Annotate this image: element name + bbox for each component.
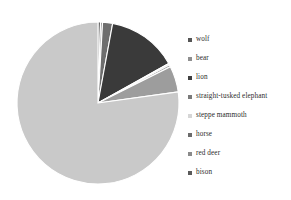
pie-svg	[10, 14, 188, 194]
legend-swatch-red-deer	[188, 152, 192, 156]
legend-swatch-bison	[188, 171, 192, 175]
chart-legend: wolf bear lion straight-tusked elephant …	[188, 30, 291, 182]
pie-chart-figure: wolf bear lion straight-tusked elephant …	[0, 0, 291, 200]
legend-item-bison[interactable]: bison	[188, 163, 291, 182]
legend-swatch-horse	[188, 133, 192, 137]
legend-swatch-wolf	[188, 38, 192, 42]
legend-item-steppe-mammoth[interactable]: steppe mammoth	[188, 106, 291, 125]
legend-label-lion: lion	[196, 68, 208, 87]
legend-item-horse[interactable]: horse	[188, 125, 291, 144]
legend-swatch-straight-tusked-elephant	[188, 95, 192, 99]
legend-item-straight-tusked-elephant[interactable]: straight-tusked elephant	[188, 87, 291, 106]
legend-label-horse: horse	[196, 125, 212, 144]
legend-label-wolf: wolf	[196, 30, 210, 49]
legend-item-bear[interactable]: bear	[188, 49, 291, 68]
legend-label-straight-tusked-elephant: straight-tusked elephant	[196, 87, 267, 106]
legend-swatch-steppe-mammoth	[188, 114, 192, 118]
pie-slices	[17, 22, 179, 184]
legend-label-bear: bear	[196, 49, 209, 68]
legend-label-bison: bison	[196, 163, 212, 182]
legend-label-steppe-mammoth: steppe mammoth	[196, 106, 247, 125]
legend-swatch-lion	[188, 76, 192, 80]
legend-item-wolf[interactable]: wolf	[188, 30, 291, 49]
pie-plot-area	[10, 14, 188, 194]
legend-item-lion[interactable]: lion	[188, 68, 291, 87]
legend-item-red-deer[interactable]: red deer	[188, 144, 291, 163]
legend-label-red-deer: red deer	[196, 144, 220, 163]
legend-swatch-bear	[188, 57, 192, 61]
